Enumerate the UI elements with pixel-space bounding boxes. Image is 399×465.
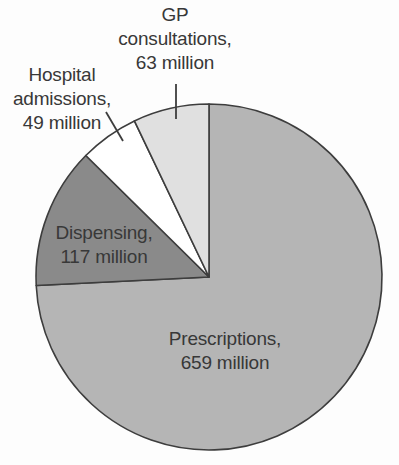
pie-chart-figure: GP consultations, 63 million Hospital ad… bbox=[0, 0, 399, 465]
pie-slices-group bbox=[36, 104, 382, 450]
pie-chart bbox=[0, 0, 399, 465]
